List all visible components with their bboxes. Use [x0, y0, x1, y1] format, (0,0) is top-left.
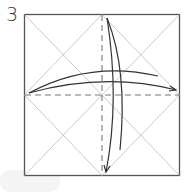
origami-diagram: [0, 0, 187, 192]
